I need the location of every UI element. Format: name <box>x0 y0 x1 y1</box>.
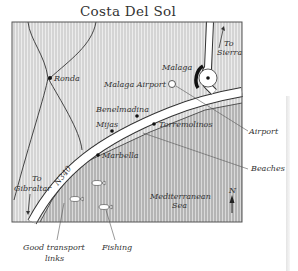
airport-icon <box>169 81 176 88</box>
torremolinos-dot <box>152 122 156 126</box>
label-to-gibraltar: To <box>32 174 42 183</box>
label-malaga: Malaga <box>161 63 192 72</box>
annotation-beaches: Beaches <box>251 164 285 173</box>
mijas-dot <box>110 129 114 133</box>
page-edge-shadow <box>286 96 290 271</box>
marbella-dot <box>96 153 100 157</box>
label-malaga-airport: Malaga Airport <box>103 80 167 89</box>
annotation-transport: Good transport <box>23 243 85 252</box>
label-ronda: Ronda <box>53 74 80 83</box>
label-benelmadina: Benelmadina <box>95 105 149 114</box>
benelmadina-dot <box>135 114 139 118</box>
label-marbella: Marbella <box>101 151 139 160</box>
svg-text:Sea: Sea <box>172 201 187 210</box>
annotation-fishing: Fishing <box>102 243 132 252</box>
ronda-dot <box>48 76 52 80</box>
label-mijas: Mijas <box>95 120 118 129</box>
svg-text:Sierra: Sierra <box>217 48 242 57</box>
svg-text:Gibraltar: Gibraltar <box>14 184 52 193</box>
label-to-sierra: To <box>224 39 234 48</box>
label-sea: Mediterranean <box>149 192 211 201</box>
svg-text:N: N <box>228 186 237 195</box>
annotation-airport: Airport <box>249 127 278 136</box>
label-torremolinos: Torremolinos <box>159 120 213 129</box>
